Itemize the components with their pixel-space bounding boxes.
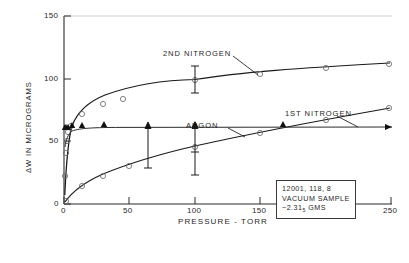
y-tick-label-150: 150 xyxy=(44,11,58,20)
y-axis-title: ΔW IN MICROGRAMS xyxy=(24,81,33,173)
curve-label-2nd-nitrogen: 2ND NITROGEN xyxy=(163,49,231,58)
x-tick-label-250: 250 xyxy=(383,206,397,215)
sample-id-line: 12001, 118, 8 xyxy=(282,184,350,194)
sample-type-line: VACUUM SAMPLE xyxy=(282,194,350,204)
sample-mass-prefix: ~2.31 xyxy=(282,203,302,212)
figure: 150 100 50 0 0 50 100 150 200 250 PRESSU… xyxy=(0,0,409,263)
y-tick-label-50: 50 xyxy=(49,136,59,145)
argon-arrowhead xyxy=(385,124,392,130)
curve-label-1st-nitrogen: 1ST NITROGEN xyxy=(285,109,352,118)
curve-label-argon: ARGON xyxy=(186,121,218,130)
leader-lines xyxy=(228,56,358,137)
argon-markers xyxy=(62,121,286,130)
x-tick-label-150: 150 xyxy=(252,206,266,215)
y-tick-label-0: 0 xyxy=(54,199,59,208)
sample-mass-suffix: GMS xyxy=(306,203,326,212)
x-tick-label-50: 50 xyxy=(123,206,133,215)
x-tick-label-0: 0 xyxy=(61,206,66,215)
x-tick-label-100: 100 xyxy=(187,206,201,215)
series-argon xyxy=(62,121,392,175)
sample-info-box: 12001, 118, 8 VACUUM SAMPLE ~2.315 GMS xyxy=(276,180,356,219)
sample-mass-line: ~2.315 GMS xyxy=(282,203,350,214)
x-axis-title: PRESSURE - TORR xyxy=(178,217,268,226)
series-2nd-nitrogen xyxy=(62,61,391,195)
y-tick-label-100: 100 xyxy=(44,74,58,83)
errorbar-argon-a xyxy=(144,122,152,168)
